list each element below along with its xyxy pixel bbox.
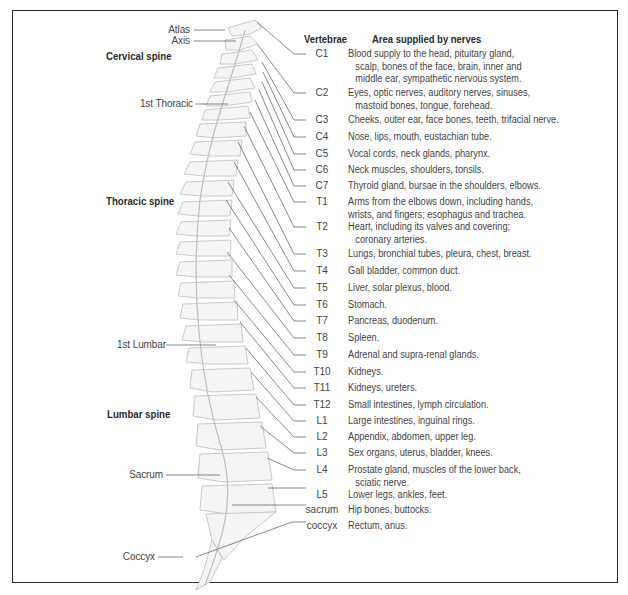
nerve-area-text: Kidneys. [348, 366, 587, 379]
region-lumbar-spine: Lumbar spine [107, 408, 170, 420]
vertebra-label: T1 [304, 196, 340, 209]
nerve-area-text: Liver, solar plexus, blood. [348, 282, 587, 295]
vertebra-label: L5 [304, 489, 340, 502]
nerve-area-text: Small intestines, lymph circulation. [348, 399, 587, 412]
vertebra-label: C6 [304, 164, 340, 177]
nerve-area-text: Kidneys, ureters. [348, 382, 587, 395]
nerve-area-text: Sex organs, uterus, bladder, knees. [348, 447, 587, 460]
nerve-area-text: Vocal cords, neck glands, pharynx. [348, 148, 587, 161]
vertebra-label: L4 [304, 464, 340, 477]
label-atlas: Atlas [168, 24, 190, 35]
vertebra-label: T6 [304, 299, 340, 312]
nerve-area-text: Stomach. [348, 299, 587, 312]
nerve-area-text: Spleen. [348, 332, 587, 345]
nerve-area-text: Cheeks, outer ear, face bones, teeth, tr… [348, 114, 587, 127]
label-1st-thoracic: 1st Thoracic [140, 98, 193, 109]
vertebra-label: T3 [304, 248, 340, 261]
label-1st-lumbar: 1st Lumbar [117, 339, 166, 350]
vertebra-label: L2 [304, 431, 340, 444]
nerve-area-text: Pancreas, duodenum. [348, 315, 587, 328]
nerve-area-text: Nose, lips, mouth, eustachian tube. [348, 131, 587, 144]
header-vertebrae: Vertebrae [304, 33, 347, 45]
vertebra-label: coccyx [304, 520, 340, 533]
nerve-area-text: Adrenal and supra-renal glands. [348, 349, 587, 362]
label-coccyx: Coccyx [123, 551, 155, 562]
vertebra-label: T9 [304, 349, 340, 362]
nerve-area-text: Lungs, bronchial tubes, pleura, chest, b… [348, 248, 587, 261]
nerve-area-text: Large intestines, inguinal rings. [348, 415, 587, 428]
nerve-area-text: Gall bladder, common duct. [348, 265, 587, 278]
nerve-area-text: Thyroid gland, bursae in the shoulders, … [348, 180, 587, 193]
vertebra-label: C7 [304, 180, 340, 193]
vertebra-label: T7 [304, 315, 340, 328]
nerve-area-text: Hip bones, buttocks. [348, 504, 587, 517]
vertebra-label: T10 [304, 366, 340, 379]
vertebra-label: C1 [304, 48, 340, 61]
vertebra-label: C4 [304, 131, 340, 144]
vertebra-label: T12 [304, 399, 340, 412]
vertebra-label: T2 [304, 221, 340, 234]
nerve-area-text: Neck muscles, shoulders, tonsils. [348, 164, 587, 177]
nerve-area-text: Arms from the elbows down, including han… [348, 196, 587, 221]
vertebra-label: T4 [304, 265, 340, 278]
region-cervical-spine: Cervical spine [106, 50, 172, 62]
label-sacrum: Sacrum [129, 469, 163, 480]
vertebra-label: C3 [304, 114, 340, 127]
header-area-supplied: Area supplied by nerves [372, 33, 481, 45]
label-axis: Axis [172, 35, 191, 46]
vertebra-label: C2 [304, 87, 340, 100]
vertebra-label: T5 [304, 282, 340, 295]
vertebra-label: L3 [304, 447, 340, 460]
nerve-area-text: Lower legs, ankles, feet. [348, 489, 587, 502]
nerve-area-text: Appendix, abdomen, upper leg. [348, 431, 587, 444]
nerve-area-text: Heart, including its valves and covering… [348, 221, 587, 246]
nerve-area-text: Eyes, optic nerves, auditory nerves, sin… [348, 87, 587, 112]
vertebra-label: C5 [304, 148, 340, 161]
vertebra-label: L1 [304, 415, 340, 428]
vertebra-label: T8 [304, 332, 340, 345]
nerve-area-text: Blood supply to the head, pituitary glan… [348, 48, 587, 86]
vertebra-label: T11 [304, 382, 340, 395]
region-thoracic-spine: Thoracic spine [106, 195, 174, 207]
nerve-area-text: Rectum, anus. [348, 520, 587, 533]
nerve-area-text: Prostate gland, muscles of the lower bac… [348, 464, 587, 489]
vertebra-label: sacrum [304, 504, 340, 517]
